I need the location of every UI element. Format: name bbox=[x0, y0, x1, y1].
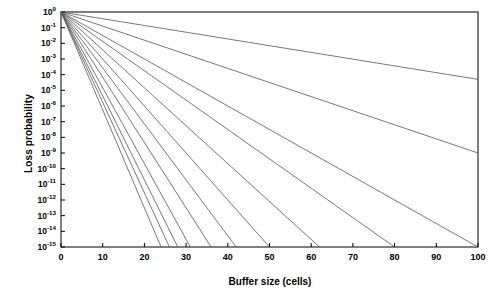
y-tick-label: 10-4 bbox=[14, 71, 56, 80]
x-tick-label: 90 bbox=[416, 252, 456, 262]
data-line bbox=[61, 12, 190, 247]
y-tick-exponent: -10 bbox=[47, 162, 56, 169]
y-tick-label: 10-9 bbox=[14, 149, 56, 158]
x-tick-label: 0 bbox=[41, 252, 81, 262]
y-tick-exponent: -9 bbox=[50, 146, 56, 153]
y-tick-exponent: -14 bbox=[47, 225, 56, 232]
data-line bbox=[61, 12, 169, 247]
y-tick-mantissa: 10 bbox=[38, 179, 47, 189]
y-tick-mantissa: 10 bbox=[38, 226, 47, 236]
y-tick-label: 10-8 bbox=[14, 133, 56, 142]
y-tick-label: 10-3 bbox=[14, 55, 56, 64]
y-tick-mantissa: 10 bbox=[38, 211, 47, 221]
y-tick-label: 10-5 bbox=[14, 86, 56, 95]
y-tick-exponent: -13 bbox=[47, 209, 56, 216]
data-series-lines bbox=[61, 12, 478, 247]
x-tick-label: 20 bbox=[124, 252, 164, 262]
y-tick-exponent: -12 bbox=[47, 193, 56, 200]
y-tick-exponent: -15 bbox=[47, 240, 56, 247]
y-tick-exponent: -4 bbox=[50, 68, 56, 75]
y-tick-exponent: 0 bbox=[53, 5, 56, 12]
y-tick-label: 10-14 bbox=[14, 227, 56, 236]
data-line bbox=[61, 12, 236, 247]
y-tick-label: 100 bbox=[14, 8, 56, 17]
x-tick-label: 80 bbox=[375, 252, 415, 262]
y-tick-mantissa: 10 bbox=[43, 7, 52, 17]
y-tick-mantissa: 10 bbox=[38, 195, 47, 205]
y-tick-exponent: -6 bbox=[50, 99, 56, 106]
y-tick-label: 10-10 bbox=[14, 165, 56, 174]
y-tick-label: 10-6 bbox=[14, 102, 56, 111]
y-tick-exponent: -8 bbox=[50, 131, 56, 138]
y-tick-exponent: -3 bbox=[50, 52, 56, 59]
x-tick-label: 60 bbox=[291, 252, 331, 262]
y-tick-label: 10-13 bbox=[14, 212, 56, 221]
data-line bbox=[61, 12, 178, 247]
x-tick-label: 100 bbox=[458, 252, 498, 262]
y-tick-exponent: -1 bbox=[50, 21, 56, 28]
x-tick-label: 30 bbox=[166, 252, 206, 262]
y-tick-exponent: -2 bbox=[50, 37, 56, 44]
x-tick-label: 50 bbox=[250, 252, 290, 262]
x-tick-label: 10 bbox=[83, 252, 123, 262]
chart-figure: Loss probability 10010-110-210-310-410-5… bbox=[0, 0, 499, 296]
y-tick-exponent: -7 bbox=[50, 115, 56, 122]
y-tick-label: 10-2 bbox=[14, 39, 56, 48]
y-tick-label: 10-1 bbox=[14, 24, 56, 33]
y-tick-mantissa: 10 bbox=[38, 164, 47, 174]
data-line bbox=[61, 12, 478, 247]
y-tick-label: 10-15 bbox=[14, 243, 56, 252]
y-tick-mantissa: 10 bbox=[38, 242, 47, 252]
y-tick-label: 10-12 bbox=[14, 196, 56, 205]
y-tick-label: 10-7 bbox=[14, 118, 56, 127]
y-tick-label: 10-11 bbox=[14, 180, 56, 189]
x-tick-label: 40 bbox=[208, 252, 248, 262]
x-axis-title: Buffer size (cells) bbox=[61, 276, 479, 287]
x-tick-label: 70 bbox=[333, 252, 373, 262]
y-tick-exponent: -5 bbox=[50, 84, 56, 91]
y-tick-exponent: -11 bbox=[47, 178, 56, 185]
data-line bbox=[61, 12, 211, 247]
